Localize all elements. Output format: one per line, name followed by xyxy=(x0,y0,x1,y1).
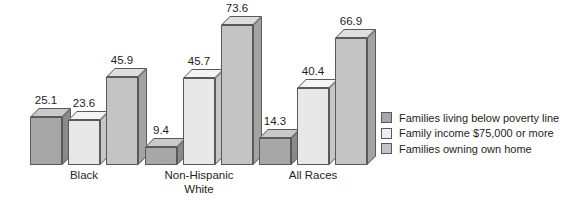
bar-value-label: 25.1 xyxy=(35,94,57,106)
bar-value-label: 9.4 xyxy=(153,124,169,136)
bar-nhwhite-home[interactable]: 73.6 xyxy=(221,25,253,165)
bar-value-label: 14.3 xyxy=(264,115,286,127)
group-label-line2: White xyxy=(164,183,233,197)
legend-item-poverty[interactable]: Families living below poverty line xyxy=(381,110,559,126)
bar-black-home[interactable]: 45.9 xyxy=(106,77,138,165)
bar-front-face xyxy=(145,147,177,165)
group-label-line1: Non-Hispanic xyxy=(164,169,233,183)
bar-front-face xyxy=(221,25,253,165)
bar-black-income[interactable]: 23.6 xyxy=(68,120,100,165)
bar-value-label: 40.4 xyxy=(302,65,324,77)
bar-group-all-races: 14.3 40.4 66.9 All Races xyxy=(255,0,370,206)
legend-swatch-icon xyxy=(381,112,392,123)
bar-nhwhite-income[interactable]: 45.7 xyxy=(183,78,215,165)
bar-front-face xyxy=(183,78,215,165)
bar-group-non-hispanic-white: 9.4 45.7 73.6 Non-Hispanic White xyxy=(140,0,255,206)
legend-item-income[interactable]: Family income $75,000 or more xyxy=(381,126,559,142)
bar-front-face xyxy=(68,120,100,165)
bar-front-face xyxy=(297,88,329,165)
bar-value-label: 23.6 xyxy=(73,97,95,109)
bar-front-face xyxy=(30,117,62,165)
bar-side-face xyxy=(367,29,376,165)
group-label-all-races: All Races xyxy=(289,169,338,183)
bar-front-face xyxy=(106,77,138,165)
bar-nhwhite-poverty[interactable]: 9.4 xyxy=(145,147,177,165)
group-label-line1: All Races xyxy=(289,169,338,183)
bar-value-label: 73.6 xyxy=(226,2,248,14)
legend-label: Families living below poverty line xyxy=(399,112,559,124)
legend-label: Family income $75,000 or more xyxy=(399,127,554,139)
bar-value-label: 66.9 xyxy=(340,15,362,27)
chart-legend: Families living below poverty line Famil… xyxy=(381,110,559,157)
group-label-non-hispanic-white: Non-Hispanic White xyxy=(164,169,233,196)
bar-black-poverty[interactable]: 25.1 xyxy=(30,117,62,165)
bar-allraces-poverty[interactable]: 14.3 xyxy=(259,138,291,165)
plot-area: 25.1 23.6 45.9 Black xyxy=(0,0,380,206)
legend-label: Families owning own home xyxy=(399,143,532,155)
bar-allraces-income[interactable]: 40.4 xyxy=(297,88,329,165)
bar-front-face xyxy=(259,138,291,165)
legend-item-home[interactable]: Families owning own home xyxy=(381,141,559,157)
bar-allraces-home[interactable]: 66.9 xyxy=(335,38,367,165)
bar-chart: 25.1 23.6 45.9 Black xyxy=(0,0,587,206)
legend-swatch-icon xyxy=(381,143,392,154)
legend-swatch-icon xyxy=(381,128,392,139)
group-label-black: Black xyxy=(70,169,98,183)
group-label-line1: Black xyxy=(70,169,98,183)
bar-front-face xyxy=(335,38,367,165)
bar-value-label: 45.7 xyxy=(188,55,210,67)
bar-group-black: 25.1 23.6 45.9 Black xyxy=(22,0,137,206)
bar-value-label: 45.9 xyxy=(111,54,133,66)
